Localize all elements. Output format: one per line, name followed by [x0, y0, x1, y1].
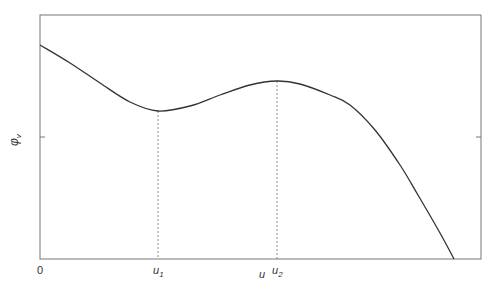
u2-label: u2	[272, 264, 283, 279]
chart-plot-area	[0, 0, 500, 290]
u1-label: u1	[153, 264, 164, 279]
x-axis-label: u	[259, 268, 265, 280]
y-subscript: v	[14, 134, 23, 138]
y-label-text: φ	[7, 138, 21, 146]
x-origin-label: 0	[37, 264, 43, 276]
phi-v-curve	[40, 45, 454, 259]
y-axis-label: φv	[7, 134, 23, 146]
u2-subscript: 2	[278, 270, 282, 279]
plot-frame	[40, 15, 481, 259]
u1-subscript: 1	[159, 270, 163, 279]
